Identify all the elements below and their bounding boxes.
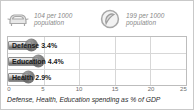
bar-row-health: Health 2.9%	[8, 69, 186, 85]
plot-area: Defense 3.4% Education 4.4% Health 2.9%	[7, 36, 187, 86]
spending-bar-chart: Defense 3.4% Education 4.4% Health 2.9%	[7, 36, 187, 86]
stat-vehicles-unit: population	[34, 19, 72, 27]
chart-caption: Defense, Health, Education spending as %…	[7, 95, 187, 105]
bar-label-health: Health 2.9%	[12, 74, 51, 81]
axis-tick-20: 20	[148, 86, 155, 92]
bar-row-education: Education 4.4%	[8, 53, 186, 69]
x-axis: 0 5 10 15 20 25	[7, 86, 187, 95]
stat-telephones-unit: population	[126, 19, 164, 27]
stat-vehicles: 104 per 1000 population	[5, 8, 97, 30]
stat-telephones: 199 per 1000 population	[97, 8, 189, 30]
axis-tick-25: 25	[180, 86, 187, 92]
bar-row-defense: Defense 3.4%	[8, 37, 186, 53]
stats-row: 104 per 1000 population 199 per 1000 pop…	[1, 1, 193, 35]
axis-tick-15: 15	[112, 86, 119, 92]
spending-stats-widget: 104 per 1000 population 199 per 1000 pop…	[0, 0, 194, 110]
bar-label-education: Education 4.4%	[12, 58, 64, 65]
car-icon	[5, 8, 31, 30]
axis-tick-10: 10	[76, 86, 83, 92]
telephone-icon	[97, 8, 123, 30]
stat-vehicles-value: 104 per 1000	[34, 12, 72, 19]
bar-series: Defense 3.4% Education 4.4% Health 2.9%	[8, 37, 186, 85]
stat-telephones-text: 199 per 1000 population	[126, 12, 164, 27]
bar-label-defense: Defense 3.4%	[12, 42, 57, 49]
stat-telephones-value: 199 per 1000	[126, 12, 164, 19]
axis-tick-0: 0	[7, 86, 10, 92]
stat-vehicles-text: 104 per 1000 population	[34, 12, 72, 27]
axis-tick-5: 5	[41, 86, 44, 92]
